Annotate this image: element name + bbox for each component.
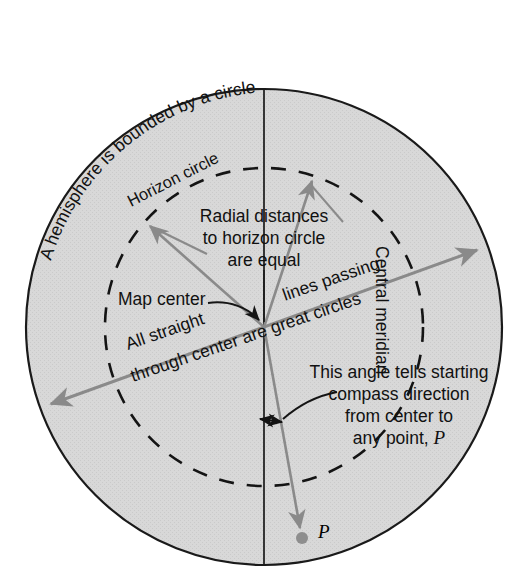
radial-distance-label-line1: Radial distances: [200, 206, 329, 226]
diagram-canvas: A hemisphere is bounded by a circle Hori…: [0, 0, 514, 582]
angle-label-line4: any point, P: [353, 427, 446, 448]
point-p-label: P: [317, 521, 330, 542]
angle-label-line1: This angle tells starting: [310, 362, 489, 382]
radial-distance-label-line3: are equal: [228, 250, 301, 270]
angle-label-line3: from center to: [345, 406, 453, 426]
angle-label-line2: compass direction: [328, 384, 469, 404]
angle-label-line4-text: any point,: [353, 428, 434, 448]
angle-label-line4-point: P: [433, 427, 446, 448]
central-meridian-label: Central meridian: [372, 246, 392, 374]
map-center-label: Map center: [118, 289, 206, 309]
point-p-marker: [296, 532, 308, 544]
radial-distance-label-line2: to horizon circle: [203, 228, 326, 248]
hemisphere-projection-diagram: A hemisphere is bounded by a circle Hori…: [0, 0, 514, 582]
